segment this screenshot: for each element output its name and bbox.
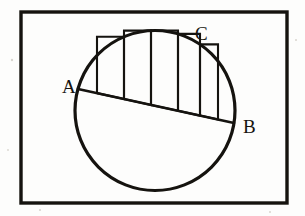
vertex-label-b: B bbox=[243, 116, 256, 137]
paper-speck bbox=[39, 209, 41, 211]
paper-speck bbox=[295, 39, 297, 41]
inscribed-rectangle bbox=[151, 31, 178, 111]
geometry-diagram-svg: ABC bbox=[0, 0, 305, 216]
figure-canvas: ABC bbox=[0, 0, 305, 216]
circle-outline bbox=[75, 31, 235, 191]
inscribed-rectangle bbox=[124, 31, 151, 105]
chord-ab-line bbox=[78, 89, 234, 123]
inscribed-rectangle bbox=[97, 37, 124, 99]
vertex-label-c: C bbox=[195, 23, 208, 44]
vertex-labels-group: ABC bbox=[62, 23, 256, 137]
paper-speck bbox=[7, 149, 9, 151]
paper-speck bbox=[11, 59, 13, 61]
inscribed-rectangle bbox=[178, 34, 200, 116]
outer-border-rectangle bbox=[21, 12, 287, 203]
vertex-label-a: A bbox=[62, 76, 76, 97]
paper-speck bbox=[269, 211, 271, 213]
